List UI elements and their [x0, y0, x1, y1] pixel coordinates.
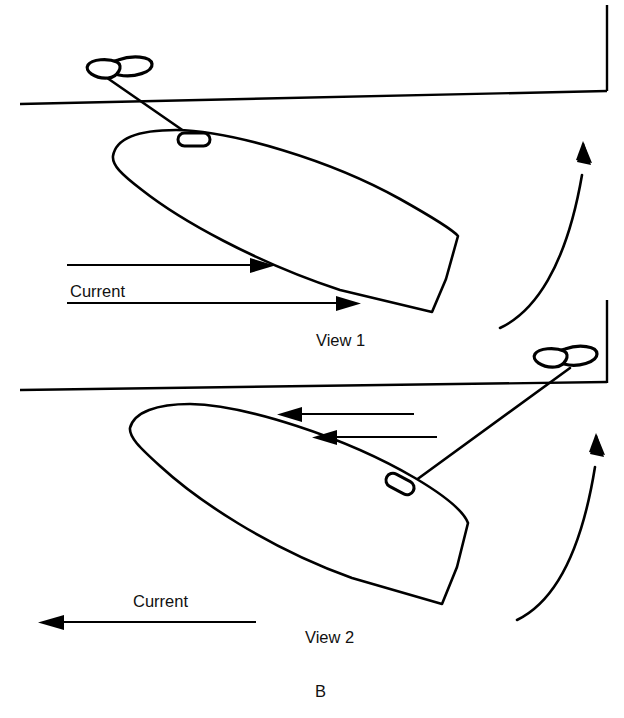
buoy-bottom [534, 346, 597, 367]
view-1-label: View 1 [316, 331, 365, 349]
mooring-line-top [100, 73, 191, 136]
mooring-diagram-svg: Current View 1 [0, 0, 624, 718]
dock-line-top [20, 91, 607, 104]
current-label-view-1: Current [70, 282, 125, 300]
swing-arrow-top [500, 141, 592, 328]
dock-line-bottom [20, 382, 607, 390]
view-2-group: Current View 2 [20, 300, 607, 646]
cleat-top [178, 133, 210, 146]
view-2-label: View 2 [305, 628, 354, 646]
buoy-top [87, 57, 152, 78]
current-arrow-bottom [38, 615, 256, 630]
swing-arrow-bottom [517, 433, 605, 620]
mooring-line-bottom [408, 368, 570, 486]
hull-top [113, 130, 458, 312]
hull-bottom [130, 404, 468, 604]
diagram-root: Current View 1 [0, 0, 624, 718]
figure-caption: B [315, 682, 326, 700]
view-1-group: Current View 1 [20, 5, 607, 349]
current-label-view-2: Current [133, 592, 188, 610]
